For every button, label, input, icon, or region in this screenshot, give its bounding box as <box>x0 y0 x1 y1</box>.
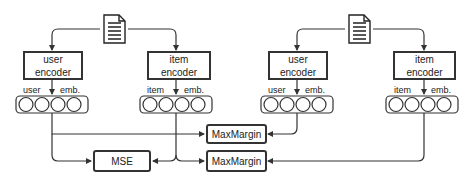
item-encoder-left-line2: encoder <box>161 66 197 79</box>
user-emb-right-label-left: user <box>268 86 286 95</box>
maxmargin-top-box: MaxMargin <box>206 124 267 144</box>
maxmargin-bottom-box: MaxMargin <box>206 150 267 172</box>
item-emb-right-label-left: item <box>394 86 411 95</box>
item-encoder-left: item encoder <box>147 51 211 80</box>
item-encoder-right: item encoder <box>393 51 456 80</box>
user-encoder-right: user encoder <box>268 51 328 80</box>
edge-doc-to-item-encoder-left <box>128 29 176 50</box>
item-emb-left-label-right: emb. <box>184 86 204 95</box>
user-encoder-left: user encoder <box>23 51 83 80</box>
user-encoder-left-line1: user <box>43 53 62 66</box>
item-encoder-right-line2: encoder <box>406 66 442 79</box>
maxmargin-top-label: MaxMargin <box>212 128 261 141</box>
item-encoder-left-line1: item <box>170 53 189 66</box>
maxmargin-bottom-label: MaxMargin <box>212 155 261 168</box>
user-encoder-left-line2: encoder <box>35 66 71 79</box>
user-emb-left-label-right: emb. <box>60 86 80 95</box>
document-icon-right <box>349 15 370 43</box>
user-encoder-right-line2: encoder <box>280 66 316 79</box>
item-encoder-right-line1: item <box>415 53 434 66</box>
item-emb-left-label-left: item <box>147 86 164 95</box>
user-emb-left-label-left: user <box>23 86 41 95</box>
mse-label: MSE <box>111 155 133 168</box>
mse-loss-box: MSE <box>93 150 151 172</box>
edge-doc-to-user-encoder-left <box>52 29 100 50</box>
edge-doc-to-user-encoder-right <box>297 29 345 50</box>
edge-doc-to-item-encoder-right <box>373 29 424 50</box>
document-icon-left <box>104 15 125 43</box>
user-emb-right-label-right: emb. <box>305 86 325 95</box>
item-emb-right-label-right: emb. <box>431 86 451 95</box>
user-encoder-right-line1: user <box>288 53 307 66</box>
